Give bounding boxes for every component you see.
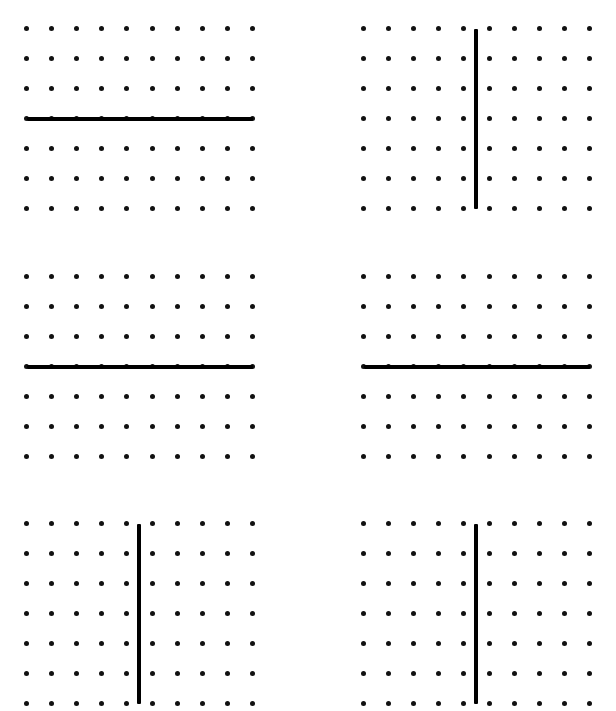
- grid-dot: [99, 86, 104, 91]
- grid-dot: [250, 304, 255, 309]
- grid-dot: [175, 424, 180, 429]
- grid-dot: [537, 146, 542, 151]
- grid-dot: [99, 274, 104, 279]
- grid-dot: [24, 454, 29, 459]
- grid-dot: [512, 304, 517, 309]
- grid-dot: [386, 334, 391, 339]
- grid-dot: [74, 334, 79, 339]
- grid-dot: [24, 424, 29, 429]
- grid-dot: [200, 146, 205, 151]
- dot-matrix-panel-1: [24, 26, 255, 211]
- horizontal-line: [364, 365, 590, 369]
- grid-dot: [225, 86, 230, 91]
- grid-dot: [124, 304, 129, 309]
- grid-dot: [124, 671, 129, 676]
- grid-dot: [587, 56, 592, 61]
- grid-dot: [150, 334, 155, 339]
- grid-dot: [124, 424, 129, 429]
- grid-dot: [225, 701, 230, 706]
- grid-dot: [99, 206, 104, 211]
- grid-dot: [487, 304, 492, 309]
- grid-dot: [225, 611, 230, 616]
- grid-dot: [74, 611, 79, 616]
- grid-dot: [74, 146, 79, 151]
- grid-dot: [436, 146, 441, 151]
- grid-dot: [562, 26, 567, 31]
- grid-dot: [537, 26, 542, 31]
- grid-dot: [49, 454, 54, 459]
- grid-dot: [537, 176, 542, 181]
- grid-dot: [361, 26, 366, 31]
- grid-dot: [587, 581, 592, 586]
- dot-matrix-panel-5: [24, 521, 255, 706]
- grid-dot: [361, 454, 366, 459]
- grid-dot: [487, 581, 492, 586]
- grid-dot: [124, 551, 129, 556]
- grid-dot: [24, 304, 29, 309]
- vertical-line: [474, 29, 478, 209]
- grid-dot: [487, 176, 492, 181]
- grid-dot: [512, 206, 517, 211]
- grid-dot: [250, 86, 255, 91]
- grid-dot: [386, 551, 391, 556]
- grid-dot: [99, 56, 104, 61]
- grid-dot: [461, 176, 466, 181]
- grid-dot: [587, 304, 592, 309]
- grid-dot: [150, 26, 155, 31]
- vertical-line: [137, 524, 141, 704]
- grid-dot: [487, 206, 492, 211]
- grid-dot: [537, 334, 542, 339]
- grid-dot: [175, 454, 180, 459]
- grid-dot: [200, 551, 205, 556]
- grid-dot: [124, 334, 129, 339]
- grid-dot: [99, 424, 104, 429]
- grid-dot: [487, 454, 492, 459]
- grid-dot: [537, 274, 542, 279]
- grid-dot: [461, 26, 466, 31]
- grid-dot: [99, 146, 104, 151]
- grid-dot: [512, 274, 517, 279]
- grid-dot: [250, 56, 255, 61]
- grid-dot: [562, 206, 567, 211]
- horizontal-line: [27, 365, 253, 369]
- grid-dot: [150, 581, 155, 586]
- grid-dot: [411, 521, 416, 526]
- grid-dot: [562, 521, 567, 526]
- grid-dot: [74, 304, 79, 309]
- grid-dot: [461, 86, 466, 91]
- grid-dot: [436, 701, 441, 706]
- grid-dot: [461, 641, 466, 646]
- grid-dot: [411, 274, 416, 279]
- grid-dot: [49, 671, 54, 676]
- grid-dot: [461, 424, 466, 429]
- grid-dot: [436, 56, 441, 61]
- grid-dot: [587, 176, 592, 181]
- grid-dot: [99, 521, 104, 526]
- grid-dot: [537, 641, 542, 646]
- grid-dot: [386, 304, 391, 309]
- grid-dot: [361, 274, 366, 279]
- grid-dot: [225, 304, 230, 309]
- grid-dot: [74, 521, 79, 526]
- horizontal-line: [27, 117, 253, 121]
- grid-dot: [512, 611, 517, 616]
- grid-dot: [487, 274, 492, 279]
- grid-dot: [175, 304, 180, 309]
- grid-dot: [74, 671, 79, 676]
- grid-dot: [386, 671, 391, 676]
- grid-dot: [225, 394, 230, 399]
- grid-dot: [175, 701, 180, 706]
- grid-dot: [99, 26, 104, 31]
- grid-dot: [74, 206, 79, 211]
- grid-dot: [361, 206, 366, 211]
- grid-dot: [225, 334, 230, 339]
- grid-dot: [74, 176, 79, 181]
- figure-root: [0, 0, 616, 711]
- grid-dot: [124, 206, 129, 211]
- grid-dot: [537, 424, 542, 429]
- grid-dot: [74, 86, 79, 91]
- grid-dot: [411, 611, 416, 616]
- dot-matrix-panel-3: [24, 274, 255, 459]
- grid-dot: [562, 394, 567, 399]
- grid-dot: [587, 671, 592, 676]
